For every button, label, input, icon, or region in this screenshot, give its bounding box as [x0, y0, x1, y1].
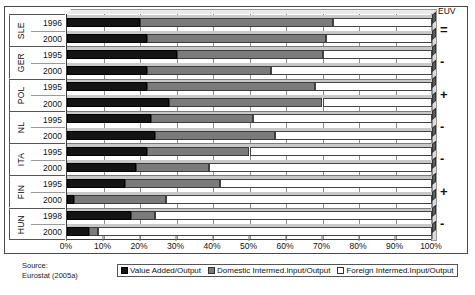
bar-top-face — [67, 208, 436, 211]
bar-segment-foreign — [275, 131, 432, 140]
bar-segment-foreign — [326, 34, 432, 43]
bar-row — [67, 143, 431, 159]
chart-figure: SLE19962000GER19952000POL19952000NL19952… — [0, 0, 475, 295]
stacked-bar — [67, 195, 432, 204]
group-separator — [67, 79, 431, 80]
country-group: HUN19982000 — [9, 208, 65, 240]
euv-symbol: - — [440, 217, 444, 230]
bar-row — [67, 14, 431, 30]
euv-symbol: - — [440, 152, 444, 165]
bar-segment-value-added — [67, 147, 147, 156]
group-separator — [67, 143, 431, 144]
euv-column: EUV =-+--+- — [436, 6, 472, 246]
bar-segment-value-added — [67, 163, 136, 172]
bar-segment-domestic — [177, 50, 323, 59]
bar-segment-value-added — [67, 18, 140, 27]
x-tick-label: 70% — [313, 241, 330, 251]
bar-top-face — [67, 160, 436, 163]
bar-top-face — [67, 15, 436, 18]
bar-top-face — [67, 111, 436, 114]
x-tick-mark — [358, 236, 359, 241]
bar-segment-foreign — [155, 211, 432, 220]
country-group: ITA19952000 — [9, 143, 65, 175]
plot-area — [66, 14, 431, 240]
group-separator — [67, 175, 431, 176]
country-group: SLE19962000 — [9, 14, 65, 46]
year-label: 2000 — [31, 95, 65, 111]
bar-segment-foreign — [323, 50, 433, 59]
bar-top-face — [67, 95, 436, 98]
country-label: HUN — [9, 209, 31, 239]
x-tick-label: 20% — [130, 241, 147, 251]
x-tick-mark — [394, 236, 395, 241]
euv-symbol: = — [440, 23, 448, 36]
x-tick-mark — [139, 236, 140, 241]
stacked-bar — [67, 34, 432, 43]
bar-segment-foreign — [253, 114, 432, 123]
stacked-bar — [67, 211, 432, 220]
year-label: 1995 — [31, 144, 65, 160]
year-label: 1996 — [31, 15, 65, 31]
x-tick-label: 60% — [276, 241, 293, 251]
country-group: NL19952000 — [9, 111, 65, 143]
bar-segment-domestic — [125, 179, 220, 188]
bar-top-face — [67, 176, 436, 179]
bar-segment-domestic — [147, 66, 271, 75]
bar-row — [67, 111, 431, 127]
bar-segment-domestic — [140, 18, 333, 27]
year-label: 2000 — [31, 192, 65, 208]
stacked-bar — [67, 147, 432, 156]
bar-segment-foreign — [271, 66, 432, 75]
bar-row — [67, 62, 431, 78]
bar-segment-value-added — [67, 82, 147, 91]
bar-row — [67, 192, 431, 208]
bar-row — [67, 127, 431, 143]
stacked-bar — [67, 163, 432, 172]
year-label: 1995 — [31, 47, 65, 63]
bar-segment-foreign — [209, 163, 432, 172]
stacked-bar — [67, 98, 432, 107]
year-label: 1998 — [31, 209, 65, 224]
x-axis-ticks: 0%10%20%30%40%50%60%70%80%90%100% — [66, 241, 431, 255]
bar-segment-domestic — [151, 114, 253, 123]
x-tick-mark — [175, 236, 176, 241]
year-label: 1995 — [31, 80, 65, 96]
stacked-bar — [67, 131, 432, 140]
x-tick-mark — [248, 236, 249, 241]
legend-item-domestic: Domestic Intermed.Input/Output — [208, 266, 330, 275]
bar-segment-foreign — [98, 227, 432, 236]
x-tick-label: 0% — [60, 241, 72, 251]
bar-segment-foreign — [333, 18, 432, 27]
bar-segment-value-added — [67, 131, 155, 140]
stacked-bar — [67, 114, 432, 123]
year-label: 2000 — [31, 127, 65, 143]
euv-symbol: - — [440, 120, 444, 133]
bar-segment-foreign — [323, 98, 433, 107]
x-tick-mark — [102, 236, 103, 241]
stacked-bar — [67, 179, 432, 188]
bar-top-face — [67, 224, 436, 227]
stacked-bar — [67, 18, 432, 27]
bar-segment-value-added — [67, 195, 74, 204]
country-label: POL — [9, 80, 31, 111]
bar-segment-value-added — [67, 211, 131, 220]
source-value: Eurostat (2005a) — [22, 271, 78, 281]
country-label: SLE — [9, 15, 31, 46]
bar-row — [67, 95, 431, 111]
bar-segment-value-added — [67, 50, 177, 59]
year-label: 2000 — [31, 160, 65, 176]
euv-symbol: - — [440, 55, 444, 68]
bar-segment-value-added — [67, 227, 89, 236]
x-tick-label: 50% — [240, 241, 257, 251]
year-label: 2000 — [31, 63, 65, 79]
bar-segment-value-added — [67, 179, 125, 188]
legend-item-value-added: Value Added/Output — [121, 266, 201, 275]
bar-segment-foreign — [250, 147, 433, 156]
bar-segment-domestic — [131, 211, 155, 220]
bar-segment-foreign — [220, 179, 432, 188]
legend-swatch-domestic — [208, 267, 215, 274]
bar-top-face — [67, 128, 436, 131]
bar-segment-value-added — [67, 98, 169, 107]
bar-segment-value-added — [67, 66, 147, 75]
group-separator — [67, 111, 431, 112]
